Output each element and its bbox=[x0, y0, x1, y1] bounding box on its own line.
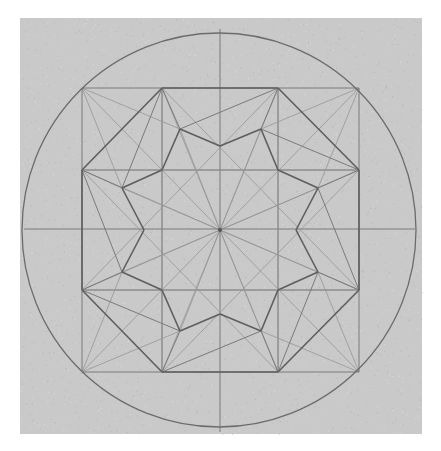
center-point bbox=[218, 228, 222, 232]
geometric-drawing bbox=[0, 0, 441, 451]
